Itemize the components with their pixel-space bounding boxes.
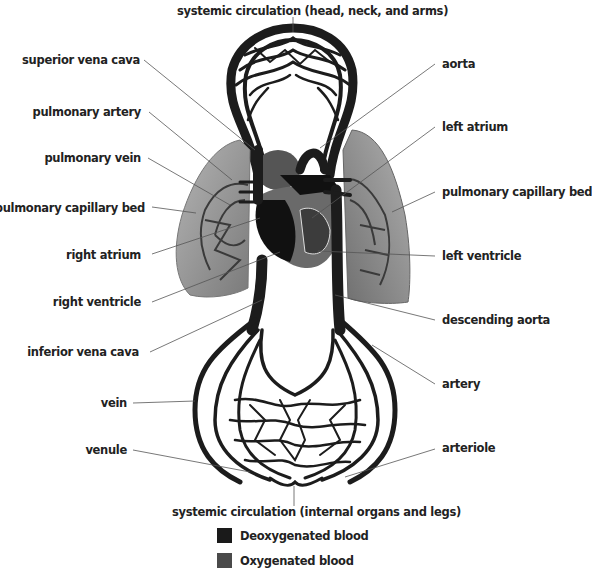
aorta-arch	[300, 153, 325, 170]
label-pulmonary-capillary-bed-left: pulmonary capillary bed	[0, 201, 145, 215]
label-arteriole: arteriole	[442, 441, 495, 455]
label-left-ventricle: left ventricle	[442, 249, 521, 263]
legend-swatch-oxygenated	[217, 553, 232, 568]
lower-capillary-network	[195, 320, 395, 485]
label-pulmonary-capillary-bed-right: pulmonary capillary bed	[442, 185, 592, 199]
label-artery: artery	[442, 377, 480, 391]
label-vein: vein	[101, 396, 127, 410]
label-systemic-upper: systemic circulation (head, neck, and ar…	[177, 4, 448, 18]
label-pulmonary-artery: pulmonary artery	[33, 105, 141, 119]
descending-aorta	[336, 190, 340, 330]
legend-label-oxygenated: Oxygenated blood	[240, 554, 354, 568]
label-left-atrium: left atrium	[442, 120, 508, 134]
legend-swatch-deoxygenated	[217, 528, 232, 543]
label-right-atrium: right atrium	[66, 248, 141, 262]
label-right-ventricle: right ventricle	[53, 295, 141, 309]
legend-deoxygenated: Deoxygenated blood	[217, 528, 368, 543]
label-systemic-lower: systemic circulation (internal organs an…	[172, 505, 461, 519]
legend-label-deoxygenated: Deoxygenated blood	[240, 529, 368, 543]
label-superior-vena-cava: superior vena cava	[22, 53, 140, 67]
label-descending-aorta: descending aorta	[442, 313, 550, 327]
label-venule: venule	[85, 443, 127, 457]
label-pulmonary-vein: pulmonary vein	[44, 151, 141, 165]
right-lung	[343, 130, 410, 303]
label-inferior-vena-cava: inferior vena cava	[27, 345, 139, 359]
left-lung	[176, 140, 250, 297]
legend-oxygenated: Oxygenated blood	[217, 553, 354, 568]
label-aorta: aorta	[442, 57, 475, 71]
